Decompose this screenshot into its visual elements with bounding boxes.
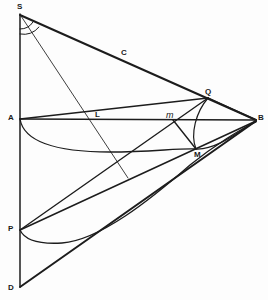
point-label-M: M (194, 151, 201, 159)
diagram-canvas (0, 0, 268, 300)
point-label-A: A (8, 114, 14, 122)
point-label-S: S (17, 3, 22, 11)
point-label-C: C (121, 49, 127, 57)
point-label-L: L (95, 111, 100, 119)
point-label-Q: Q (205, 88, 211, 96)
point-label-m: m (166, 111, 174, 120)
chord-A-B (20, 119, 256, 120)
point-label-B: B (258, 114, 264, 122)
geometric-figure: S C A L m Q B M P D (0, 0, 268, 300)
point-label-P: P (8, 225, 13, 233)
point-label-D: D (8, 284, 14, 292)
